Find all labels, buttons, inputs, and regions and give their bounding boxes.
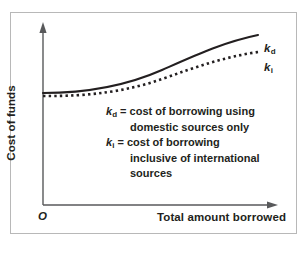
legend-kd-first-line: kd = cost of borrowing using xyxy=(106,104,286,120)
legend-kd-text-line-1: cost of borrowing using xyxy=(130,105,255,117)
legend-ki-text-line-2: inclusive of international xyxy=(106,151,286,166)
legend-ki-symbol-subscript: i xyxy=(112,141,114,150)
curve-label-kd-base: k xyxy=(264,42,270,54)
legend-entry-ki: ki = cost of borrowing inclusive of inte… xyxy=(106,135,286,181)
x-axis-label: Total amount borrowed xyxy=(157,211,286,223)
curve-label-kd: kd xyxy=(264,42,275,54)
legend-kd-symbol: kd xyxy=(106,105,117,117)
origin-label: O xyxy=(38,210,47,222)
figure-container: Cost of funds Total amount borrowed O kd… xyxy=(0,0,307,256)
legend-kd-symbol-subscript: d xyxy=(112,110,117,119)
legend-ki-equals: = xyxy=(117,136,123,148)
legend-entry-kd: kd = cost of borrowing using domestic so… xyxy=(106,104,286,135)
curve-label-kd-subscript: d xyxy=(271,47,276,56)
legend-ki-first-line: ki = cost of borrowing xyxy=(106,135,286,151)
legend-ki-text-line-1: cost of borrowing xyxy=(127,136,220,148)
curve-label-ki: ki xyxy=(264,61,273,73)
legend-kd-text-line-2: domestic sources only xyxy=(106,120,286,135)
chart-legend: kd = cost of borrowing using domestic so… xyxy=(106,104,286,181)
curve-label-ki-base: k xyxy=(264,61,270,73)
curve-kd-solid xyxy=(43,35,258,93)
legend-ki-symbol: ki xyxy=(106,136,114,148)
legend-kd-equals: = xyxy=(120,105,126,117)
legend-ki-text-line-3: sources xyxy=(106,166,286,181)
x-axis-arrowhead xyxy=(267,201,278,208)
curve-label-ki-subscript: i xyxy=(271,66,273,75)
y-axis-arrowhead xyxy=(39,22,46,33)
y-axis-label: Cost of funds xyxy=(5,75,17,171)
